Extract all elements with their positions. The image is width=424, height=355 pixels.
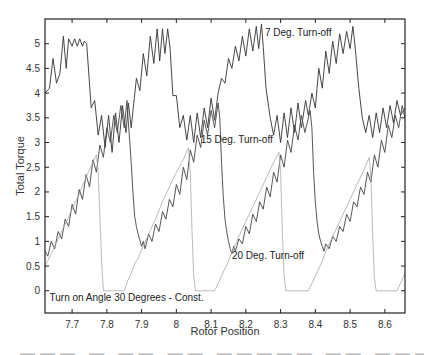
annotation-3: 20 Deg. Turn-off <box>232 250 304 261</box>
series-2-line <box>45 101 405 257</box>
x-tick-label: 7.8 <box>100 319 114 330</box>
y-tick-label: 0 <box>34 285 40 296</box>
x-tick-label: 7.7 <box>65 319 79 330</box>
y-tick-label: 4 <box>34 88 40 99</box>
y-tick-label: 0.5 <box>26 261 40 272</box>
caption-text: ▬▬▬ ▬ ▬▬ ▬▬ ▬▬▬▬▬ ▬▬ ▬▬▬▬ ▬▬▬ ▬▬▬ ▬▬▬▬▬ <box>0 344 424 355</box>
y-tick-label: 3.5 <box>26 112 40 123</box>
torque-chart: 7.77.87.988.18.28.38.48.58.6 00.511.522.… <box>0 0 424 355</box>
annotation-2: 15 Deg. Turn-off <box>201 134 273 145</box>
figure-caption: ▬▬▬ ▬ ▬▬ ▬▬ ▬▬▬▬▬ ▬▬ ▬▬▬▬ ▬▬▬ ▬▬▬ ▬▬▬▬▬ <box>0 340 424 355</box>
annotation-1: 7 Deg. Turn-off <box>265 27 332 38</box>
x-tick-label: 8 <box>174 319 180 330</box>
x-axis-ticks: 7.77.87.988.18.28.38.48.58.6 <box>65 19 392 330</box>
y-tick-label: 3 <box>34 137 40 148</box>
y-tick-label: 4.5 <box>26 63 40 74</box>
x-tick-label: 8.3 <box>274 319 288 330</box>
series-layer <box>45 24 405 291</box>
annotation-4: Turn on Angle 30 Degrees - Const. <box>50 292 204 303</box>
y-tick-label: 2.5 <box>26 162 40 173</box>
y-tick-label: 2 <box>34 186 40 197</box>
y-tick-label: 1.5 <box>26 211 40 222</box>
y-tick-label: 5 <box>34 38 40 49</box>
y-axis-ticks: 00.511.522.533.544.55 <box>26 38 405 296</box>
y-tick-label: 1 <box>34 236 40 247</box>
x-tick-label: 8.4 <box>308 319 322 330</box>
x-tick-label: 8.6 <box>378 319 392 330</box>
x-tick-label: 8.5 <box>343 319 357 330</box>
y-axis-label: Total Torque <box>14 136 26 196</box>
x-axis-label: Rotor Position <box>190 325 259 337</box>
x-tick-label: 7.9 <box>135 319 149 330</box>
